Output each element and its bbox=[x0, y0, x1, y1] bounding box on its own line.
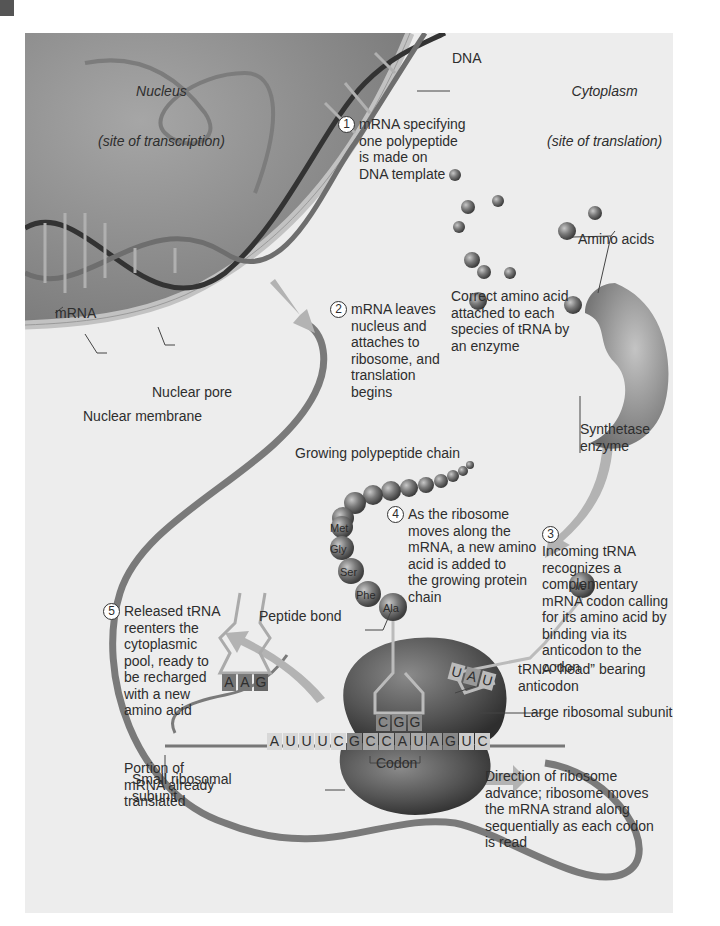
step-number-badge: 5 bbox=[103, 603, 120, 620]
anticodon-base: A bbox=[238, 674, 252, 691]
aa-label: Gly bbox=[330, 543, 347, 555]
step-4: 4As the ribosome moves along the mRNA, a… bbox=[387, 506, 536, 605]
mrna-label: mRNA bbox=[55, 305, 96, 322]
codon-label: Codon bbox=[376, 755, 417, 772]
mrna-base: C bbox=[331, 733, 346, 750]
step-number-badge: 4 bbox=[387, 506, 404, 523]
synthetase-label: Synthetase enzyme bbox=[580, 421, 650, 454]
cytoplasm-title: Cytoplasm (site of translation) bbox=[547, 50, 662, 182]
anticodon-released: A A G bbox=[222, 674, 268, 691]
step-5: 5Released tRNA reenters the cytoplasmic … bbox=[103, 603, 221, 719]
cytoplasm-subtitle-text: (site of translation) bbox=[547, 133, 662, 150]
anticodon-base: A bbox=[222, 674, 236, 691]
step-number-badge: 3 bbox=[542, 526, 559, 543]
step-text: As the ribosome moves along the mRNA, a … bbox=[408, 506, 536, 605]
mrna-base: U bbox=[315, 733, 330, 750]
mrna-base: U bbox=[283, 733, 298, 750]
cytoplasm-title-text: Cytoplasm bbox=[547, 83, 662, 100]
peptide-bond-label: Peptide bond bbox=[259, 608, 342, 625]
step-text: Released tRNA reenters the cytoplasmic p… bbox=[124, 603, 221, 719]
mrna-base: G bbox=[443, 733, 458, 750]
amino-acids-label: Amino acids bbox=[578, 231, 654, 248]
aa-label: Ser bbox=[340, 566, 357, 578]
nuclear-membrane-label: Nuclear membrane bbox=[83, 408, 202, 425]
mrna-base: A bbox=[427, 733, 442, 750]
step-3: 3Incoming tRNA recognizes a complementar… bbox=[542, 526, 673, 675]
nuclear-pore-label: Nuclear pore bbox=[152, 384, 232, 401]
step-number-badge: 1 bbox=[338, 116, 355, 133]
step-text: mRNA leaves nucleus and attaches to ribo… bbox=[351, 301, 440, 400]
step-number-badge: 2 bbox=[330, 301, 347, 318]
nucleus-subtitle-text: (site of transcription) bbox=[98, 133, 225, 150]
translation-diagram-panel: Met Gly Ser Phe Ala Ile bbox=[25, 33, 673, 913]
mrna-base: U bbox=[299, 733, 314, 750]
mrna-base: G bbox=[347, 733, 362, 750]
mrna-base: A bbox=[267, 733, 282, 750]
mrna-base: A bbox=[395, 733, 410, 750]
aa-label: Phe bbox=[356, 589, 376, 601]
mrna-sequence: A U U U C G C C A U A G U C bbox=[267, 733, 490, 750]
mrna-base: C bbox=[475, 733, 490, 750]
mrna-base: C bbox=[379, 733, 394, 750]
mrna-base: C bbox=[363, 733, 378, 750]
corner-tab bbox=[0, 0, 14, 16]
mrna-base: U bbox=[459, 733, 474, 750]
dna-label: DNA bbox=[452, 50, 482, 67]
mrna-base: U bbox=[411, 733, 426, 750]
anticodon-bound: C G G bbox=[376, 714, 422, 731]
anticodon-base: G bbox=[392, 714, 406, 731]
nucleus-title: Nucleus (site of transcription) bbox=[98, 50, 225, 182]
large-subunit-label: Large ribosomal subunit bbox=[523, 704, 672, 721]
step-text: mRNA specifying one polypeptide is made … bbox=[359, 116, 466, 182]
growing-chain-label: Growing polypeptide chain bbox=[295, 445, 460, 462]
correct-amino-acid-label: Correct amino acid attached to each spec… bbox=[451, 288, 569, 354]
anticodon-base: G bbox=[254, 674, 268, 691]
step-1: 1mRNA specifying one polypeptide is made… bbox=[338, 116, 466, 182]
anticodon-base: G bbox=[408, 714, 422, 731]
anticodon-base: C bbox=[376, 714, 390, 731]
aa-label: Met bbox=[330, 522, 348, 534]
direction-label: Direction of ribosome advance; ribosome … bbox=[485, 768, 654, 851]
portion-translated-label: Portion of mRNA already translated bbox=[124, 760, 214, 810]
nucleus-title-text: Nucleus bbox=[98, 83, 225, 100]
step-2: 2mRNA leaves nucleus and attaches to rib… bbox=[330, 301, 440, 400]
step-text: Incoming tRNA recognizes a complementary… bbox=[542, 543, 668, 675]
